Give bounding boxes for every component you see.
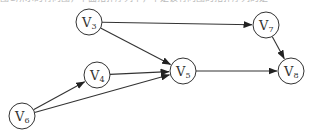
edge-v3-to-v7 (102, 22, 252, 25)
node-v3: V3 (76, 9, 102, 35)
node-v6: V6 (9, 103, 35, 129)
edge-v4-to-v5 (110, 72, 169, 75)
edge-v3-to-v5 (101, 28, 171, 65)
edge-v7-to-v8 (272, 36, 284, 58)
node-v5: V5 (170, 58, 196, 84)
node-v7: V7 (253, 12, 279, 38)
diagram-canvas: 图G所示的有向图，下面拓扑序列中，不是该有向图的拓扑序列的是 V3V7V4V5V… (0, 0, 310, 134)
node-v4: V4 (84, 62, 110, 88)
directed-graph: V3V7V4V5V8V6 (0, 0, 310, 134)
edges (33, 22, 284, 112)
node-v8: V8 (278, 58, 304, 84)
nodes: V3V7V4V5V8V6 (9, 9, 304, 129)
